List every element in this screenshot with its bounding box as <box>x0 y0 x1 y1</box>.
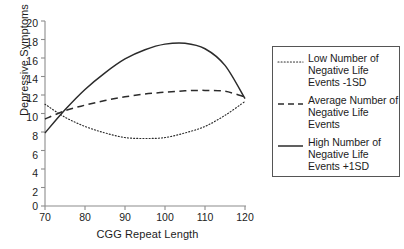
series-line-high-negative-life-events <box>45 43 245 133</box>
x-axis-ticks <box>45 206 245 210</box>
legend-sample-solid-icon <box>277 140 304 152</box>
series-line-low-negative-life-events <box>45 101 245 138</box>
legend-label-average: Average Number of Negative Life Events <box>308 94 399 131</box>
chart-legend: Low Number of Negative Life Events -1SD … <box>272 46 400 177</box>
series-line-average-negative-life-events <box>45 90 245 119</box>
y-axis-ticks <box>41 21 45 206</box>
legend-item-low: Low Number of Negative Life Events -1SD <box>277 52 399 89</box>
chart-figure: Depressive Symptoms 20 18 16 14 12 10 8 … <box>0 0 404 249</box>
legend-label-low: Low Number of Negative Life Events -1SD <box>308 52 399 89</box>
legend-item-average: Average Number of Negative Life Events <box>277 94 399 131</box>
legend-item-high: High Number of Negative Life Events +1SD <box>277 136 399 173</box>
legend-label-high: High Number of Negative Life Events +1SD <box>308 136 399 173</box>
legend-sample-dotted-icon <box>277 56 304 68</box>
legend-sample-dashed-icon <box>277 98 304 110</box>
